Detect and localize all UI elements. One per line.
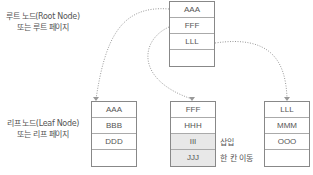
- leaf-node-1: AAA BBB DDD: [91, 101, 137, 167]
- leaf-key: [265, 150, 309, 166]
- leaf-node-2: FFF HHH III JJJ: [170, 101, 216, 167]
- root-node: AAA FFF LLL: [169, 1, 215, 67]
- leaf-node-label: 리프 노드(Leaf Node) 또는 리프 페이지: [0, 118, 86, 140]
- root-key: FFF: [170, 18, 214, 34]
- leaf-node-3: LLL MMM OOO: [264, 101, 310, 167]
- root-key: AAA: [170, 2, 214, 18]
- insert-annotation: 삽입: [220, 138, 234, 148]
- leaf-key: [92, 150, 136, 166]
- inserted-key: III: [171, 134, 215, 150]
- leaf-key: MMM: [265, 118, 309, 134]
- root-key: LLL: [170, 34, 214, 50]
- shifted-key: JJJ: [171, 150, 215, 166]
- root-node-label: 루트 노드(Root Node) 또는 루트 페이지: [0, 11, 86, 33]
- shift-annotation: 한 칸 이동: [220, 154, 253, 164]
- leaf-key: OOO: [265, 134, 309, 150]
- leaf-key: HHH: [171, 118, 215, 134]
- leaf-key: LLL: [265, 102, 309, 118]
- leaf-key: DDD: [92, 134, 136, 150]
- root-key: [170, 50, 214, 66]
- leaf-key: BBB: [92, 118, 136, 134]
- leaf-key: FFF: [171, 102, 215, 118]
- leaf-key: AAA: [92, 102, 136, 118]
